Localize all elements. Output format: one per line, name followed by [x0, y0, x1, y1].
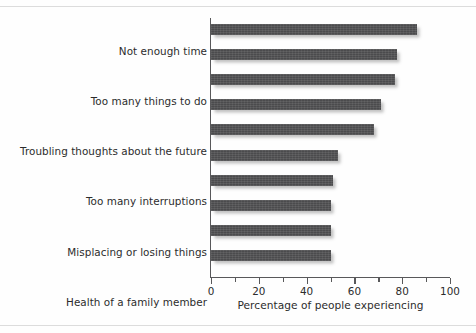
category-label: Misplacing or losing things [2, 246, 207, 258]
x-tick-label: 100 [430, 285, 470, 297]
x-tick-minor [331, 278, 332, 282]
x-tick-minor [235, 278, 236, 282]
x-tick-label: 80 [382, 285, 422, 297]
bar [211, 24, 417, 35]
figure-page: 020406080100 Not enough timeToo many thi… [0, 0, 476, 333]
x-tick-minor [426, 278, 427, 282]
bar [211, 124, 374, 135]
bar [211, 175, 333, 186]
x-tick-label: 20 [239, 285, 279, 297]
bar [211, 99, 381, 110]
x-tick-major [259, 278, 260, 284]
category-label: Not enough time [2, 45, 207, 57]
bar [211, 49, 397, 60]
x-tick-minor [283, 278, 284, 282]
x-tick-major [211, 278, 212, 284]
bar [211, 200, 331, 211]
category-label: Too many things to do [2, 95, 207, 107]
x-tick-label: 40 [287, 285, 327, 297]
horizontal-bar-chart: 020406080100 Not enough timeToo many thi… [0, 0, 476, 333]
x-tick-major [402, 278, 403, 284]
bar [211, 150, 338, 161]
x-tick-major [354, 278, 355, 284]
bar [211, 250, 331, 261]
x-axis-title: Percentage of people experiencing [211, 299, 450, 311]
category-label: Troubling thoughts about the future [2, 145, 207, 157]
x-tick-label: 60 [334, 285, 374, 297]
category-label: Too many interruptions [2, 195, 207, 207]
category-label: Health of a family member [2, 296, 207, 308]
x-tick-major [307, 278, 308, 284]
bar [211, 74, 395, 85]
x-tick-major [450, 278, 451, 284]
x-tick-minor [378, 278, 379, 282]
bar [211, 225, 331, 236]
